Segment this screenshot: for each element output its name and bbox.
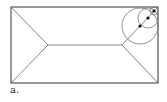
skeleton-lines xyxy=(11,7,158,83)
medial-axis-diagram xyxy=(0,0,167,102)
figure-caption: a. xyxy=(10,84,19,95)
circle-centers xyxy=(138,9,155,27)
